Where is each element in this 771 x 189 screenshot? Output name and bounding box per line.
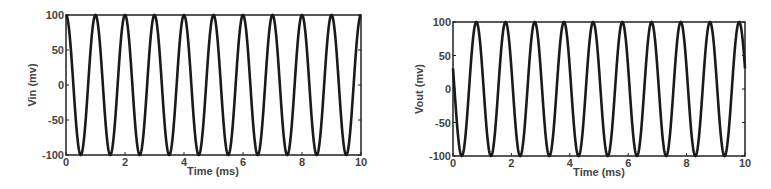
- vout-chart: 0246810 -100-50050100 Time (ms) Vout (mv…: [413, 16, 751, 178]
- vout-waveform: [453, 22, 745, 156]
- x-tick-label: 6: [240, 156, 246, 168]
- x-tick-label: 2: [508, 157, 514, 169]
- y-tick-label: 50: [52, 44, 64, 56]
- y-tick-label: -50: [435, 117, 451, 129]
- y-tick-label: -50: [48, 114, 64, 126]
- y-tick-label: 100: [46, 9, 64, 21]
- plot-area-frame: [453, 22, 745, 156]
- x-tick-label: 6: [625, 157, 631, 169]
- y-tick-label: -100: [429, 150, 451, 162]
- plot-area-frame: [66, 15, 361, 155]
- x-tick-label: 2: [122, 156, 128, 168]
- x-tick-label: 10: [355, 156, 367, 168]
- vin-chart: 0246810 -100-50050100 Time (ms) Vin (mv): [26, 9, 367, 177]
- y-axis-label: Vin (mv): [26, 63, 38, 107]
- vin-waveform: [66, 15, 361, 155]
- x-tick-label: 8: [684, 157, 690, 169]
- x-axis-label: Time (ms): [187, 165, 239, 177]
- figure: 0246810 -100-50050100 Time (ms) Vin (mv)…: [0, 0, 771, 189]
- x-tick-label: 10: [739, 157, 751, 169]
- y-tick-label: -100: [42, 149, 64, 161]
- y-tick-label: 0: [58, 79, 64, 91]
- y-tick-label: 50: [439, 50, 451, 62]
- y-tick-label: 0: [445, 83, 451, 95]
- y-tick-label: 100: [433, 16, 451, 28]
- x-tick-label: 8: [299, 156, 305, 168]
- x-axis-label: Time (ms): [573, 166, 625, 178]
- y-axis-label: Vout (mv): [413, 64, 425, 114]
